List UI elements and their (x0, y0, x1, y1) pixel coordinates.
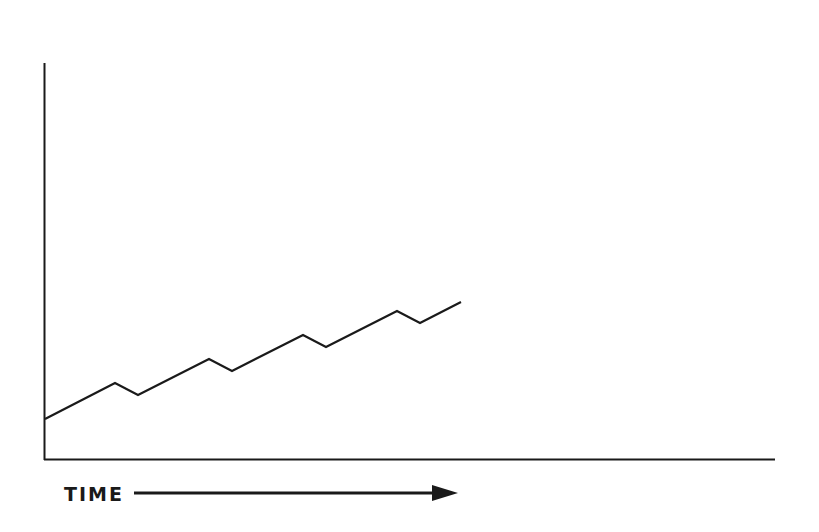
time-trend-diagram: TIME (0, 0, 819, 532)
x-axis-label: TIME (64, 483, 124, 505)
trend-line (45, 302, 461, 419)
time-arrow-head-icon (432, 485, 458, 501)
